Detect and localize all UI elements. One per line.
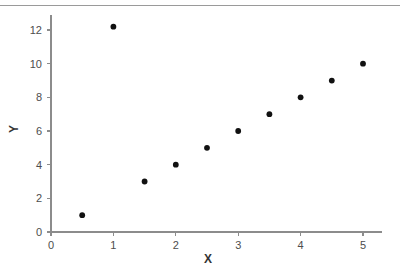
y-tick-label: 2 (36, 192, 42, 204)
scatter-point (79, 212, 85, 218)
x-tick-label: 2 (173, 239, 179, 251)
y-tick-label: 0 (36, 226, 42, 238)
y-axis-title: Y (7, 125, 21, 133)
x-tick-label: 3 (235, 239, 241, 251)
x-tick-label: 0 (48, 239, 54, 251)
y-tick-label: 4 (36, 159, 42, 171)
y-tick-label: 6 (36, 125, 42, 137)
x-axis-tick-labels: 012345 (48, 239, 366, 251)
x-tick-label: 1 (110, 239, 116, 251)
scatter-point (142, 179, 148, 185)
scatter-point (235, 128, 241, 134)
y-tick-label: 10 (30, 58, 42, 70)
x-tick-label: 4 (298, 239, 304, 251)
scatter-point (173, 162, 179, 168)
top-divider-rule (0, 5, 400, 6)
scatter-point (329, 78, 335, 84)
x-axis-title: X (204, 252, 212, 266)
y-tick-label: 8 (36, 91, 42, 103)
y-axis-tick-labels: 024681012 (30, 24, 42, 238)
scatter-points-group (79, 24, 366, 218)
y-tick-label: 12 (30, 24, 42, 36)
scatter-point (204, 145, 210, 151)
x-tick-label: 5 (360, 239, 366, 251)
scatter-point (298, 94, 304, 100)
scatter-point (111, 24, 117, 30)
scatter-point (267, 111, 273, 117)
x-axis-ticks (51, 232, 363, 236)
plot-canvas: 024681012 012345 Y X (0, 0, 400, 277)
scatter-plot-figure: 024681012 012345 Y X (0, 0, 400, 277)
scatter-point (360, 61, 366, 67)
